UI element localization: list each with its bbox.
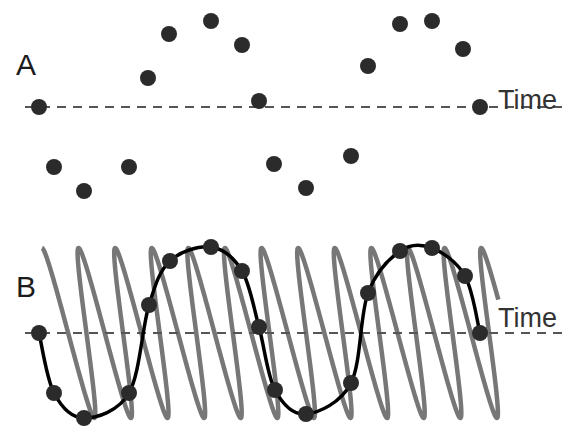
sample-dot [141, 297, 157, 313]
sample-dot [343, 375, 359, 391]
sample-dot [457, 268, 473, 284]
sample-dot [46, 159, 62, 175]
sample-dot [455, 41, 471, 57]
sample-dot [234, 263, 250, 279]
sample-dot [343, 148, 359, 164]
time-axis-label-b: Time [498, 305, 557, 332]
sample-dot [31, 325, 47, 341]
panel-label-b: B [16, 272, 36, 302]
sample-dot [298, 180, 314, 196]
panel-a [25, 13, 562, 199]
sample-dot [161, 26, 177, 42]
sample-dot [140, 70, 156, 86]
sample-dot [76, 183, 92, 199]
panel-label-a: A [16, 50, 36, 80]
sample-dot [298, 406, 314, 422]
sample-dot [360, 58, 376, 74]
sample-dot [472, 99, 488, 115]
sample-dot [234, 37, 250, 53]
sample-dot [267, 382, 283, 398]
aliasing-figure: A Time B Time [0, 0, 580, 436]
figure-canvas [0, 0, 580, 436]
sample-dot [360, 285, 376, 301]
sample-dot [203, 13, 219, 29]
panel-b [25, 239, 562, 426]
sample-dot [251, 93, 267, 109]
sample-dot [162, 253, 178, 269]
time-axis-label-a: Time [498, 87, 557, 114]
sample-dot [46, 385, 62, 401]
sample-dot [76, 410, 92, 426]
sample-dot [392, 16, 408, 32]
sample-dot [203, 239, 219, 255]
sample-dot [472, 325, 488, 341]
sample-dot [251, 319, 267, 335]
sample-dot [266, 156, 282, 172]
sample-dot [121, 159, 137, 175]
sample-dots-a [31, 13, 488, 199]
sample-dot [392, 243, 408, 259]
sample-dot [424, 240, 440, 256]
sample-dot [31, 99, 47, 115]
sample-dot [121, 385, 137, 401]
sample-dot [424, 13, 440, 29]
